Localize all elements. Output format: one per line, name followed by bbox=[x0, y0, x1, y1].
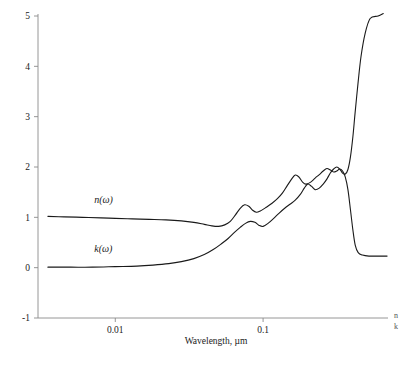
x-tick-label: 0.01 bbox=[107, 325, 124, 335]
y-tick-label: 5 bbox=[25, 11, 30, 21]
y-tick-label: 0 bbox=[25, 263, 30, 273]
axes bbox=[38, 14, 388, 318]
y-tick-label: 2 bbox=[25, 162, 30, 172]
curve-annotations: n(ω)k(ω) bbox=[94, 194, 113, 254]
y-tick-label: 4 bbox=[25, 62, 30, 72]
series-line-k bbox=[48, 13, 383, 267]
tick-labels: -10123450.010.1 bbox=[22, 11, 269, 335]
refractive-index-line-chart: -10123450.010.1 n(ω)k(ω) Wavelength, µm … bbox=[0, 0, 402, 366]
edge-marks: nk bbox=[394, 311, 398, 331]
y-tick-label: 1 bbox=[25, 213, 30, 223]
edge-mark: k bbox=[394, 322, 398, 331]
x-tick-label: 0.1 bbox=[257, 325, 269, 335]
edge-mark: n bbox=[394, 311, 398, 320]
y-tick-label: 3 bbox=[25, 112, 30, 122]
series-label-k: k(ω) bbox=[94, 243, 113, 255]
chart-container: -10123450.010.1 n(ω)k(ω) Wavelength, µm … bbox=[0, 0, 402, 366]
data-series bbox=[48, 13, 387, 267]
series-label-n: n(ω) bbox=[94, 194, 113, 206]
x-axis-label: Wavelength, µm bbox=[185, 336, 248, 346]
y-tick-label: -1 bbox=[22, 313, 30, 323]
